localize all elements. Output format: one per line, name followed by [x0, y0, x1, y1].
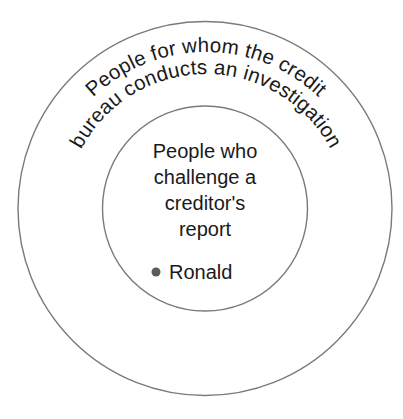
member-bullet-icon [152, 268, 161, 277]
inner-set-label-line-1: People who [153, 140, 258, 162]
member-label-ronald: Ronald [169, 261, 232, 283]
venn-diagram-canvas: People for whom the credit bureau conduc… [0, 0, 403, 419]
inner-set-label-line-3: creditor's [165, 192, 246, 214]
venn-diagram: People for whom the credit bureau conduc… [0, 0, 403, 419]
inner-set-label-line-4: report [179, 218, 232, 240]
inner-set-label-line-2: challenge a [154, 166, 257, 188]
